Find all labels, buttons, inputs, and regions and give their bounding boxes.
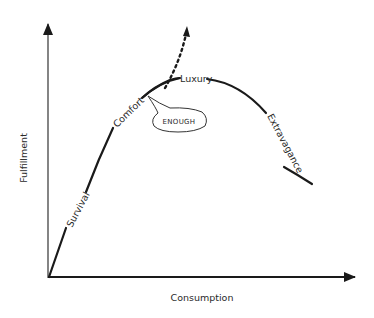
stage-label-luxury: Luxury [180,73,213,84]
enough-callout-label: ENOUGH [163,118,196,126]
x-axis-label: Consumption [171,292,234,303]
luxury-bridge [142,78,180,98]
dotted-line-arrow-icon [183,26,190,37]
enough-callout-bubble [148,96,206,132]
stage-label-survival: Survival [64,190,92,229]
y-axis-label: Fulfillment [18,133,29,183]
stage-label-extravagance: Extravagance [265,112,306,175]
fulfillment-curve-diagram: ENOUGH Survival Comfort Luxury Extravaga… [0,0,374,318]
stage-label-comfort: Comfort [111,95,147,130]
